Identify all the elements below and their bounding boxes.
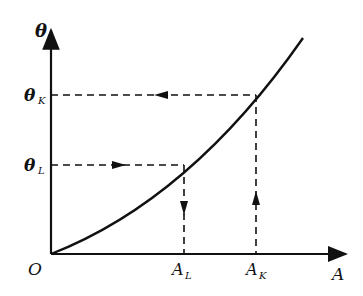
svg-text:K: K [258, 270, 267, 281]
x-axis-label: A [330, 264, 344, 284]
arrow-left-icon [154, 91, 168, 99]
arrow-down-icon [180, 201, 188, 215]
svg-text:A: A [244, 260, 258, 279]
svg-text:L: L [184, 270, 192, 281]
svg-text:A: A [170, 260, 184, 279]
x-tick-a-k: A K [244, 260, 267, 281]
y-axis-label: θ [35, 20, 47, 41]
arrow-up-icon [252, 191, 260, 205]
arrow-right-icon [112, 161, 126, 169]
curve [51, 38, 303, 254]
svg-text:L: L [37, 165, 45, 176]
y-tick-theta-k: θ K [24, 85, 46, 106]
svg-text:θ: θ [24, 85, 36, 105]
origin-label: O [28, 259, 42, 279]
diagram-canvas: θ A O θ K θ L A L A K [0, 0, 363, 296]
y-tick-theta-l: θ L [24, 155, 45, 176]
x-tick-a-l: A L [170, 260, 192, 281]
svg-text:K: K [37, 95, 46, 106]
svg-text:θ: θ [24, 155, 36, 175]
